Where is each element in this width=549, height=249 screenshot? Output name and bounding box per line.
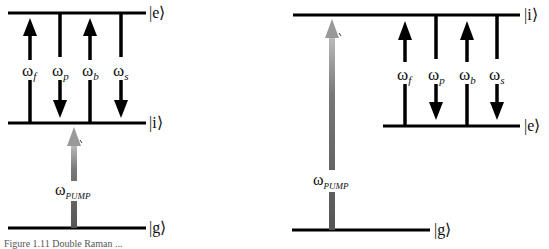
pump-arrow-icon	[67, 127, 82, 228]
transition-label-p: ωp	[52, 61, 69, 82]
level-e-label: |e⟩	[524, 117, 540, 135]
transition-label-s: ωs	[113, 61, 128, 82]
energy-level-diagram: |e⟩ |i⟩ |g⟩ ωf ωp ωb ωs	[0, 0, 549, 249]
level-i-label: |i⟩	[524, 6, 538, 24]
transition-label-f: ωf	[22, 61, 38, 82]
level-g-label: |g⟩	[149, 219, 166, 237]
figure-caption: Figure 1.11 Double Raman ...	[4, 238, 123, 249]
level-i-label: |i⟩	[149, 114, 163, 132]
transition-label-b: ωb	[459, 65, 476, 86]
right-panel: |i⟩ |e⟩ |g⟩ ωf ωp ωb ωs	[292, 6, 540, 239]
transition-label-s: ωs	[489, 65, 504, 86]
transition-label-b: ωb	[82, 61, 99, 82]
level-g-label: |g⟩	[434, 221, 451, 239]
transition-label-p: ωp	[428, 65, 445, 86]
level-e-label: |e⟩	[149, 4, 165, 22]
left-panel: |e⟩ |i⟩ |g⟩ ωf ωp ωb ωs	[8, 4, 166, 237]
pump-arrow-icon	[325, 19, 341, 230]
transition-label-f: ωf	[397, 65, 413, 86]
